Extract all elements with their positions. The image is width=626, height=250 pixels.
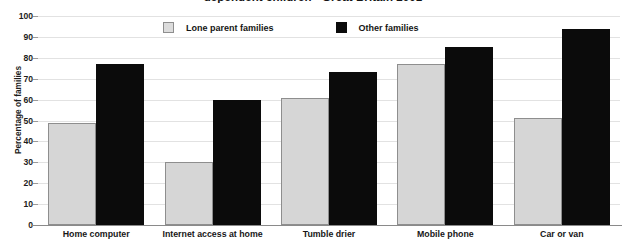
bar-chart: dependent children - Great Britain 2001 …: [0, 0, 626, 250]
bar-lone-parent-families: [165, 162, 213, 225]
x-axis-category-label: Mobile phone: [387, 229, 503, 239]
bar-other-families: [445, 47, 493, 225]
y-axis-tick-label: 50: [23, 116, 33, 126]
plot-area: 0102030405060708090100 Home computerInte…: [38, 16, 620, 225]
y-axis-tick-label: 30: [23, 157, 33, 167]
chart-legend: Lone parent families Other families: [163, 22, 419, 33]
bar-group: [48, 16, 144, 225]
y-axis-tick-mark: [33, 183, 38, 184]
y-axis-tick-mark: [33, 16, 38, 17]
bar-other-families: [329, 72, 377, 225]
bar-other-families: [213, 100, 261, 225]
legend-label-other-families: Other families: [359, 23, 419, 33]
y-axis-tick-label: 90: [23, 32, 33, 42]
bar-lone-parent-families: [48, 123, 96, 225]
y-axis-tick-label: 100: [19, 11, 33, 21]
y-axis-title: Percentage of families: [13, 40, 23, 180]
bar-group: [514, 16, 610, 225]
bar-other-families: [96, 64, 144, 225]
x-axis-category-label: Car or van: [504, 229, 620, 239]
bar-group: [397, 16, 493, 225]
y-axis-tick-label: 70: [23, 74, 33, 84]
y-axis-tick-mark: [33, 204, 38, 205]
bar-lone-parent-families: [397, 64, 445, 225]
y-axis-tick-mark: [33, 162, 38, 163]
y-axis-tick-label: 60: [23, 95, 33, 105]
legend-swatch-icon-other-families: [336, 22, 347, 33]
y-axis-tick-label: 80: [23, 53, 33, 63]
legend-swatch-icon-lone-parent-families: [163, 22, 174, 33]
x-axis-category-label: Home computer: [38, 229, 154, 239]
legend-item-other-families: Other families: [336, 22, 419, 33]
x-axis-line: [32, 225, 622, 226]
legend-label-lone-parent-families: Lone parent families: [186, 23, 274, 33]
y-axis-tick-mark: [33, 79, 38, 80]
y-axis-tick-mark: [33, 100, 38, 101]
bar-other-families: [562, 29, 610, 225]
legend-item-lone-parent-families: Lone parent families: [163, 22, 274, 33]
y-axis-tick-label: 40: [23, 136, 33, 146]
y-axis-tick-label: 10: [23, 199, 33, 209]
y-axis-tick-mark: [33, 121, 38, 122]
bar-lone-parent-families: [514, 118, 562, 225]
y-axis-tick-mark: [33, 141, 38, 142]
x-axis-category-label: Tumble drier: [271, 229, 387, 239]
y-axis-tick-mark: [33, 58, 38, 59]
bar-group: [281, 16, 377, 225]
y-axis-tick-mark: [33, 37, 38, 38]
x-axis-category-label: Internet access at home: [154, 229, 270, 239]
bar-group: [165, 16, 261, 225]
chart-title: dependent children - Great Britain 2001: [0, 0, 626, 3]
bar-lone-parent-families: [281, 98, 329, 225]
y-axis-tick-label: 20: [23, 178, 33, 188]
